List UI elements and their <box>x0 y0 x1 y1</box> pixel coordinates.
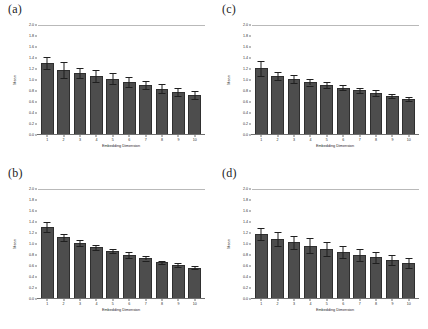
error-cap-top <box>93 70 100 71</box>
error-bar <box>145 81 146 90</box>
bar-slot <box>105 189 121 299</box>
error-cap-bottom <box>44 232 51 233</box>
error-cap-bottom <box>356 261 363 262</box>
error-cap-bottom <box>405 101 412 102</box>
x-tick-label: 2 <box>55 138 71 142</box>
error-bar <box>47 222 48 232</box>
plot-area-b: Mean 2.01.81.61.41.21.00.80.60.40.20.0 1… <box>37 189 205 299</box>
error-cap-bottom <box>175 96 182 97</box>
x-tick-label: 6 <box>121 302 137 306</box>
error-bar <box>343 246 344 258</box>
error-cap-bottom <box>126 258 133 259</box>
bar-slot <box>335 189 351 299</box>
x-tick-label: 9 <box>384 138 400 142</box>
bar-slot <box>121 25 137 135</box>
x-axis-label-d: Embedding Dimension <box>251 308 419 312</box>
y-tick-label: 0.8 <box>243 253 248 257</box>
bar <box>123 82 136 135</box>
y-tick-label: 0.2 <box>29 286 34 290</box>
y-tick-label: 0.4 <box>243 111 248 115</box>
error-cap-bottom <box>258 240 265 241</box>
bar <box>156 89 169 135</box>
x-tick-label: 8 <box>368 302 384 306</box>
x-axis-label-c: Embedding Dimension <box>251 144 419 148</box>
error-cap-top <box>258 61 265 62</box>
x-tick-label: 3 <box>72 138 88 142</box>
error-bar <box>112 73 113 84</box>
bar-group-b <box>37 189 205 299</box>
x-tick-label: 9 <box>170 138 186 142</box>
error-cap-top <box>405 97 412 98</box>
error-cap-top <box>175 88 182 89</box>
x-tick-label: 7 <box>351 302 367 306</box>
bar <box>139 258 152 299</box>
x-tick-label: 10 <box>187 302 203 306</box>
y-tick-label: 0.0 <box>243 133 248 137</box>
x-tick-label: 7 <box>351 138 367 142</box>
y-tick-label: 2.0 <box>29 187 34 191</box>
bar <box>337 88 350 135</box>
error-cap-top <box>307 238 314 239</box>
y-tick-label: 0.2 <box>243 122 248 126</box>
error-cap-top <box>291 75 298 76</box>
x-tick-label: 3 <box>286 302 302 306</box>
bar-group-c <box>251 25 419 135</box>
y-axis-label-c: Mean <box>227 75 231 85</box>
error-cap-bottom <box>109 253 116 254</box>
error-bar <box>277 72 278 80</box>
error-cap-top <box>389 255 396 256</box>
bar-slot <box>401 189 417 299</box>
error-cap-top <box>44 57 51 58</box>
error-cap-bottom <box>373 263 380 264</box>
y-tick-label: 1.6 <box>243 209 248 213</box>
error-cap-bottom <box>93 250 100 251</box>
x-tick-label: 5 <box>319 138 335 142</box>
error-cap-top <box>340 85 347 86</box>
error-cap-top <box>159 261 166 262</box>
error-bar <box>294 236 295 249</box>
x-tick-label: 1 <box>253 138 269 142</box>
error-cap-top <box>142 256 149 257</box>
x-tick-label: 7 <box>137 138 153 142</box>
multi-panel-bar-chart-figure: (a) Mean 2.01.81.61.41.21.00.80.60.40.20… <box>0 0 428 329</box>
error-cap-bottom <box>389 265 396 266</box>
error-bar <box>178 88 179 96</box>
bar <box>90 247 103 299</box>
y-tick-label: 0.4 <box>29 275 34 279</box>
error-cap-bottom <box>159 93 166 94</box>
error-cap-top <box>258 228 265 229</box>
error-bar <box>310 238 311 253</box>
x-tick-label: 1 <box>39 302 55 306</box>
plot-area-c: Mean 2.01.81.61.41.21.00.80.60.40.20.0 1… <box>251 25 419 135</box>
error-bar <box>47 57 48 69</box>
x-tick-label: 5 <box>105 302 121 306</box>
bar <box>156 262 169 299</box>
error-bar <box>408 258 409 268</box>
error-cap-top <box>323 242 330 243</box>
bar-slot <box>39 25 55 135</box>
error-cap-top <box>77 240 84 241</box>
x-tick-label: 4 <box>302 302 318 306</box>
error-bar <box>392 255 393 265</box>
x-tick-label: 2 <box>55 302 71 306</box>
error-cap-top <box>175 263 182 264</box>
x-tick-label: 4 <box>88 138 104 142</box>
bar <box>386 96 399 135</box>
bar-slot <box>72 25 88 135</box>
y-tick-label: 0.2 <box>29 122 34 126</box>
x-tick-label: 7 <box>137 302 153 306</box>
panel-c: (c) Mean 2.01.81.61.41.21.00.80.60.40.20… <box>214 0 428 164</box>
y-tick-label: 2.0 <box>29 23 34 27</box>
bar <box>271 76 284 135</box>
error-cap-bottom <box>191 269 198 270</box>
error-cap-bottom <box>389 98 396 99</box>
error-bar <box>96 70 97 82</box>
bar <box>106 251 119 299</box>
error-cap-top <box>126 77 133 78</box>
bar-slot <box>170 25 186 135</box>
bar-slot <box>286 189 302 299</box>
x-tick-label: 1 <box>39 138 55 142</box>
bar-slot <box>88 25 104 135</box>
bar <box>320 85 333 135</box>
bar-slot <box>55 25 71 135</box>
